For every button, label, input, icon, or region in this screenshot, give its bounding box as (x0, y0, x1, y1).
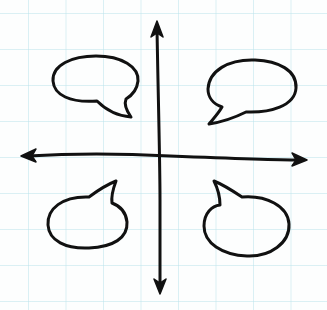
speech-bubble-bottom-right (204, 181, 289, 256)
quadrant-diagram (0, 0, 327, 310)
speech-bubble-bottom-left (48, 181, 127, 248)
horizontal-axis (21, 149, 307, 166)
vertical-axis (151, 21, 166, 294)
speech-bubble-top-right (208, 60, 296, 124)
grid-paper-canvas (0, 0, 327, 310)
speech-bubble-top-left (53, 56, 138, 117)
